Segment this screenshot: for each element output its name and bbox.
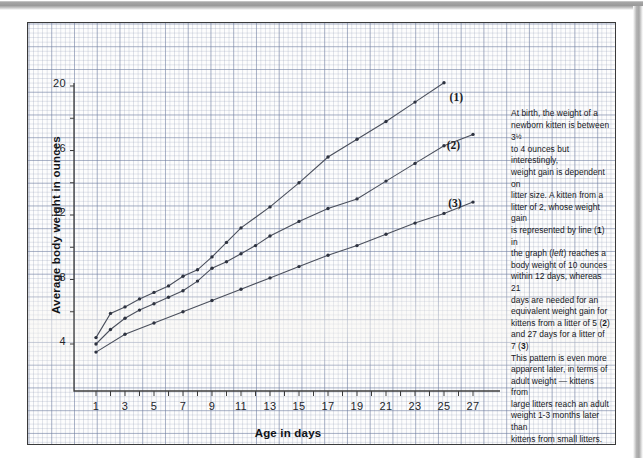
note-line: and 27 days for a litter of 7 (3) (511, 329, 611, 352)
note-line: weight gain is dependent on (511, 167, 611, 190)
x-tick-label: 11 (227, 400, 255, 412)
series-label-1: (1) (450, 91, 463, 103)
x-tick-label: 15 (285, 400, 313, 412)
note-line: litter size. A kitten from a (511, 190, 611, 202)
x-tick-label: 7 (169, 400, 197, 412)
x-tick-label: 3 (111, 400, 139, 412)
note-line: large litters reach an adult (511, 399, 611, 411)
note-line: days are needed for an (511, 295, 611, 307)
x-tick-label: 17 (314, 400, 342, 412)
y-tick-label: 20 (36, 77, 66, 89)
note-line: kittens from small litters. (511, 434, 611, 445)
note-line: weight 1-3 months later than (511, 410, 611, 433)
x-tick-label: 19 (343, 400, 371, 412)
y-tick-label: 8 (36, 271, 66, 283)
series-2 (94, 133, 474, 346)
x-tick-label: 21 (372, 400, 400, 412)
series-label-3: (3) (448, 197, 461, 209)
x-axis-title: Age in days (188, 427, 388, 439)
note-line: newborn kitten is between 3½ (511, 120, 611, 144)
x-tick-label: 27 (459, 400, 487, 412)
series-3 (94, 200, 474, 353)
page-right-shadow (633, 6, 643, 458)
x-tick-label: 13 (256, 400, 284, 412)
y-axis-title: Average body weight in ounces (50, 135, 62, 315)
note-line: the graph (left) reaches a (511, 248, 611, 260)
note-line: kittens from a litter of 5 (2) (511, 318, 611, 330)
note-line: adult weight — kittens from (511, 376, 611, 399)
note-line: is represented by line (1) in (511, 225, 611, 248)
y-tick-label: 12 (36, 206, 66, 218)
series-label-2: (2) (447, 139, 460, 151)
note-line: equivalent weight gain for (511, 306, 611, 318)
note-line: to 4 ounces but interestingly, (511, 144, 611, 167)
note-line: apparent later, in terms of (511, 364, 611, 376)
note-line: This pattern is even more (511, 353, 611, 365)
x-tick-label: 5 (140, 400, 168, 412)
figure-frame: Average body weight in ounces Age in day… (27, 22, 616, 445)
y-tick-label: 4 (36, 335, 66, 347)
x-tick-label: 23 (401, 400, 429, 412)
side-note-text: At birth, the weight of anewborn kitten … (511, 108, 611, 445)
x-tick-label: 9 (198, 400, 226, 412)
x-tick-label: 1 (82, 400, 110, 412)
x-tick-label: 25 (430, 400, 458, 412)
note-line: body weight of 10 ounces (511, 260, 611, 272)
note-line: within 12 days, whereas 21 (511, 271, 611, 294)
note-line: litter of 2, whose weight gain (511, 202, 611, 225)
page-top-shadow (0, 0, 643, 10)
note-line: At birth, the weight of a (511, 108, 611, 120)
series-1 (94, 81, 445, 339)
y-tick-label: 16 (36, 142, 66, 154)
